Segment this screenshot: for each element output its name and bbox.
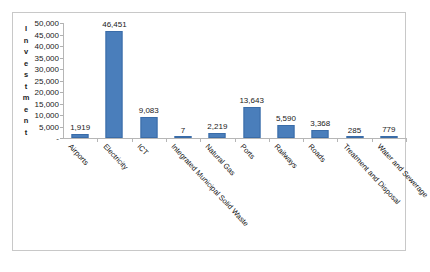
y-axis-tick-label: - [56, 134, 59, 143]
bar-value-label: 46,451 [102, 20, 126, 29]
y-axis-tick-mark [60, 127, 63, 128]
y-axis-tick-label: 40,000 [35, 42, 59, 51]
bar-slot: 46,451 [97, 23, 131, 138]
y-axis-tick-mark [60, 104, 63, 105]
bar-slot: 2,219 [200, 23, 234, 138]
x-axis-category-label: Ports [238, 142, 257, 161]
y-axis-tick-mark [60, 69, 63, 70]
bar-slot: 779 [372, 23, 406, 138]
bar-slot: 3,368 [303, 23, 337, 138]
x-axis-category-labels: AirportsElectricityICTIntegrated Municip… [63, 142, 413, 242]
x-axis-category-label: Railways [272, 142, 299, 170]
bar[interactable] [175, 136, 192, 138]
bar-slot: 7 [166, 23, 200, 138]
plot-area: -5,00010,00015,00020,00025,00030,00035,0… [63, 23, 406, 138]
bar-slot: 9,083 [132, 23, 166, 138]
y-axis-tick-mark [60, 115, 63, 116]
bar[interactable] [140, 117, 157, 138]
x-axis-category-label: Treatment and Disposal [341, 142, 402, 206]
bar[interactable] [346, 136, 363, 138]
x-axis-category-label: ICT [135, 142, 150, 157]
bar-value-label: 779 [382, 125, 395, 134]
bar-value-label: 2,219 [207, 122, 227, 131]
bar[interactable] [243, 107, 260, 138]
y-axis-tick-label: 50,000 [35, 19, 59, 28]
y-axis-tick-mark [60, 92, 63, 93]
bar[interactable] [277, 125, 294, 138]
bar-value-label: 1,919 [70, 123, 90, 132]
bar-slot: 1,919 [63, 23, 97, 138]
bar-value-label: 9,083 [139, 106, 159, 115]
y-axis-tick-mark [60, 35, 63, 36]
bar-series: 1,91946,4519,08372,21913,6435,5903,36828… [63, 23, 406, 138]
y-axis-tick-label: 45,000 [35, 30, 59, 39]
y-axis-tick-label: 5,000 [39, 122, 59, 131]
x-axis-category-label: Airports [67, 142, 91, 167]
bar[interactable] [209, 133, 226, 138]
y-axis-tick-label: 25,000 [35, 76, 59, 85]
bar[interactable] [380, 136, 397, 138]
bar-slot: 13,643 [235, 23, 269, 138]
y-axis-tick-mark [60, 138, 63, 139]
x-axis-category-label: Natural Gas [204, 142, 238, 177]
bar-value-label: 7 [181, 126, 185, 135]
bar-value-label: 13,643 [239, 96, 263, 105]
y-axis-tick-labels: -5,00010,00015,00020,00025,00030,00035,0… [15, 23, 59, 138]
bar-value-label: 285 [348, 126, 361, 135]
y-axis-tick-mark [60, 81, 63, 82]
y-axis-tick-label: 30,000 [35, 65, 59, 74]
x-axis-category-label: Electricity [101, 142, 129, 172]
y-axis-tick-label: 10,000 [35, 111, 59, 120]
chart-container: Investment -5,00010,00015,00020,00025,00… [12, 12, 406, 251]
bar-slot: 5,590 [269, 23, 303, 138]
y-axis-tick-mark [60, 46, 63, 47]
bar-value-label: 5,590 [276, 114, 296, 123]
x-axis-category-label: Roads [307, 142, 328, 164]
bar[interactable] [72, 134, 89, 138]
bar[interactable] [312, 130, 329, 138]
y-axis-tick-mark [60, 23, 63, 24]
y-axis-tick-mark [60, 58, 63, 59]
bar[interactable] [106, 31, 123, 138]
y-axis-tick-label: 15,000 [35, 99, 59, 108]
y-axis-tick-label: 35,000 [35, 53, 59, 62]
bar-slot: 285 [337, 23, 371, 138]
y-axis-tick-label: 20,000 [35, 88, 59, 97]
bar-value-label: 3,368 [310, 119, 330, 128]
